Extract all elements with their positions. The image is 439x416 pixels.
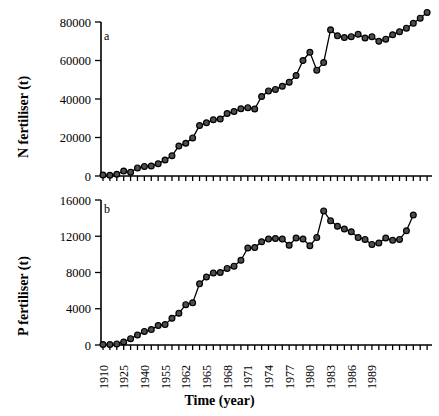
data-point: 1962: 2950 bbox=[169, 315, 175, 321]
data-point: 1956: 700 bbox=[128, 336, 134, 342]
data-point: 1972: 9350 bbox=[238, 257, 244, 263]
data-point: 1964: 17000 bbox=[183, 140, 189, 146]
y-tick-label-a: 80000 bbox=[60, 16, 91, 30]
data-point: 1958: 1500 bbox=[141, 329, 147, 335]
data-point: 1997: 14350 bbox=[410, 212, 416, 218]
data-point: 1985: 13700 bbox=[328, 218, 334, 224]
data-point: 1983: 11850 bbox=[314, 235, 320, 241]
x-tick-label: 1971 bbox=[241, 365, 255, 389]
data-point: 1980: 11800 bbox=[293, 235, 299, 241]
data-point: 1979: 11000 bbox=[286, 242, 292, 248]
x-tick-label: 1910 bbox=[97, 365, 111, 389]
data-point: 1996: 76800 bbox=[404, 25, 410, 31]
data-point: 1998: 82000 bbox=[417, 15, 423, 21]
data-point: 1971: 33500 bbox=[231, 109, 237, 115]
data-point: 1967: 27600 bbox=[204, 120, 210, 126]
data-point: 1976: 44200 bbox=[266, 88, 272, 94]
data-point: 1970: 32500 bbox=[224, 111, 230, 117]
x-tick-label: 1977 bbox=[283, 365, 297, 389]
series-line-n-fertiliser bbox=[103, 12, 427, 175]
data-point: 1983: 55000 bbox=[314, 67, 320, 73]
data-point: 1984: 58900 bbox=[321, 60, 327, 66]
data-point: 1910: 500 bbox=[100, 172, 106, 178]
y-tick-group-a: 020000400006000080000 bbox=[60, 16, 101, 184]
data-point: 1958: 5000 bbox=[141, 163, 147, 169]
data-point: 1975: 11400 bbox=[259, 239, 265, 245]
data-point: 1990: 71700 bbox=[362, 35, 368, 41]
data-point: 1995: 11650 bbox=[397, 237, 403, 243]
x-tick-label: 1962 bbox=[179, 365, 193, 389]
series-line-p-fertiliser bbox=[103, 211, 413, 345]
data-point: 1966: 26200 bbox=[197, 123, 203, 129]
data-point: 1968: 7950 bbox=[210, 270, 216, 276]
data-point: 1977: 11750 bbox=[272, 236, 278, 242]
data-point: 1971: 8700 bbox=[231, 263, 237, 269]
data-point: 1982: 10950 bbox=[307, 243, 313, 249]
x-tick-label: 1940 bbox=[138, 365, 152, 389]
data-point: 1996: 12600 bbox=[404, 228, 410, 234]
data-point: 1999: 85000 bbox=[424, 9, 430, 15]
data-point: 1979: 48700 bbox=[286, 79, 292, 85]
data-point: 1991: 72300 bbox=[369, 34, 375, 40]
data-point: 1964: 4450 bbox=[183, 302, 189, 308]
data-point: 1961: 8300 bbox=[162, 157, 168, 163]
y-tick-label-a: 40000 bbox=[60, 93, 91, 107]
panel-b-p-fertiliser: P fertiliser (t) b 0400080001200016000 1… bbox=[0, 186, 439, 361]
y-axis-label-panel-a: N fertiliser (t) bbox=[16, 76, 32, 158]
x-axis-title: Time (year) bbox=[0, 393, 439, 409]
data-point: 1957: 1100 bbox=[135, 332, 141, 338]
y-tick-label-b: 4000 bbox=[66, 302, 91, 316]
panel-letter-b: b bbox=[104, 202, 110, 217]
data-point: 1965: 4650 bbox=[190, 300, 196, 306]
y-tick-label-a: 20000 bbox=[60, 131, 91, 145]
y-tick-label-b: 16000 bbox=[60, 194, 91, 208]
y-tick-label-b: 8000 bbox=[66, 266, 91, 280]
data-point: 1959: 1700 bbox=[148, 327, 154, 333]
data-point: 1976: 11700 bbox=[266, 236, 272, 242]
data-point: 1960: 6400 bbox=[155, 161, 161, 167]
data-point: 1967: 7500 bbox=[204, 274, 210, 280]
x-tick-label: 1983 bbox=[324, 365, 338, 389]
data-point: 1965: 19800 bbox=[190, 135, 196, 141]
data-point: 1992: 70000 bbox=[376, 38, 382, 44]
data-point: 1963: 15600 bbox=[176, 143, 182, 149]
data-point: 1986: 72800 bbox=[335, 33, 341, 39]
data-point: 1993: 11800 bbox=[383, 235, 389, 241]
data-point: 1956: 2000 bbox=[128, 169, 134, 175]
data-point: 1966: 6750 bbox=[197, 281, 203, 287]
data-point: 1986: 13100 bbox=[335, 223, 341, 229]
panel-letter-a: a bbox=[104, 29, 109, 44]
data-point: 1959: 5200 bbox=[148, 163, 154, 169]
data-point: 1987: 12800 bbox=[341, 226, 347, 232]
data-point: 1969: 8000 bbox=[217, 270, 223, 276]
data-point: 1981: 11700 bbox=[300, 236, 306, 242]
y-tick-label-a: 0 bbox=[85, 170, 91, 184]
data-point: 1994: 11550 bbox=[390, 237, 396, 243]
data-point: 1978: 46600 bbox=[279, 83, 285, 89]
data-point: 1993: 71100 bbox=[383, 36, 389, 42]
data-point: 1988: 12500 bbox=[348, 229, 354, 235]
data-point: 1973: 35500 bbox=[245, 105, 251, 111]
data-point: 1973: 10700 bbox=[245, 245, 251, 251]
plot-area-panel-a: 020000400006000080000 1910: 5001925: 400… bbox=[0, 0, 439, 190]
data-point: 1978: 11700 bbox=[279, 236, 285, 242]
data-point: 1987: 71900 bbox=[341, 35, 347, 41]
data-point: 1997: 79300 bbox=[410, 20, 416, 26]
data-point: 1975: 41300 bbox=[259, 94, 265, 100]
x-tick-label: 1925 bbox=[117, 365, 131, 389]
y-tick-group-b: 0400080001200016000 bbox=[60, 194, 101, 353]
data-point: 1972: 34900 bbox=[238, 106, 244, 112]
data-point: 1980: 52200 bbox=[293, 73, 299, 79]
series-markers-p-fertiliser: 1910: 601925: 501940: 1201955: 3301956: … bbox=[100, 208, 416, 347]
data-point: 1981: 60000 bbox=[300, 58, 306, 64]
x-tick-label: 1955 bbox=[159, 365, 173, 389]
data-point: 1994: 73400 bbox=[390, 32, 396, 38]
x-tick-label: 1974 bbox=[262, 365, 276, 389]
data-point: 1995: 75000 bbox=[397, 29, 403, 35]
x-tick-label: 1986 bbox=[345, 365, 359, 389]
data-point: 1963: 3500 bbox=[176, 310, 182, 316]
data-point: 1989: 11850 bbox=[355, 235, 361, 241]
data-point: 1955: 2600 bbox=[121, 168, 127, 174]
panel-a-n-fertiliser: N fertiliser (t) a 020000400006000080000… bbox=[0, 0, 439, 190]
data-point: 1974: 34800 bbox=[252, 106, 258, 112]
